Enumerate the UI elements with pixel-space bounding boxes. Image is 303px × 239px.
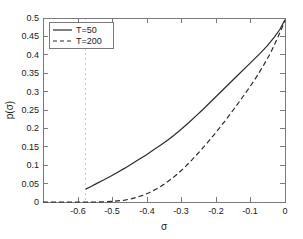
line-chart: -0.6 -0.5 -0.4 -0.3 -0.2 -0.1 0 0 0.05 0… [0,0,303,239]
x-tick-label: 0 [282,206,287,216]
x-tick-label: -0.6 [70,206,86,216]
y-tick-label: 0.35 [21,68,39,78]
legend[interactable]: T=50 T=200 [49,22,113,48]
y-tick-label: 0.15 [21,142,39,152]
x-axis-title: σ [161,221,168,232]
y-tick-label: 0.5 [26,13,39,23]
x-tick-label: -0.5 [104,206,120,216]
y-tick-label: 0.45 [21,31,39,41]
x-tick-label: -0.1 [242,206,258,216]
x-tick-label: -0.3 [173,206,189,216]
legend-label: T=50 [76,25,97,35]
y-tick-label: 0.3 [26,87,39,97]
y-axis-title: p(σ) [4,101,15,119]
y-tick-label: 0 [34,197,39,207]
legend-label: T=200 [76,36,102,46]
x-tick-label: -0.4 [139,206,155,216]
y-tick-labels: 0 0.05 0.1 0.15 0.2 0.25 0.3 0.35 0.4 0.… [21,13,39,207]
y-tick-label: 0.1 [26,160,39,170]
y-tick-label: 0.2 [26,123,39,133]
x-tick-label: -0.2 [208,206,224,216]
y-tick-label: 0.05 [21,179,39,189]
x-tick-labels: -0.6 -0.5 -0.4 -0.3 -0.2 -0.1 0 [70,206,287,216]
chart-figure: -0.6 -0.5 -0.4 -0.3 -0.2 -0.1 0 0 0.05 0… [0,0,303,239]
y-tick-label: 0.4 [26,50,39,60]
y-tick-label: 0.25 [21,105,39,115]
